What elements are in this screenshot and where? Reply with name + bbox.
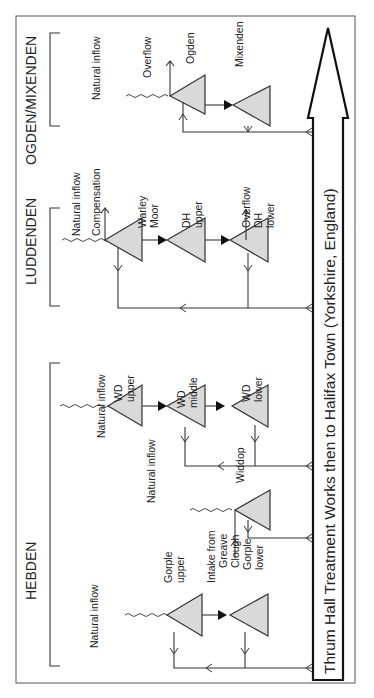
bracket-hebden [50, 363, 60, 666]
gorple-upper-outflow-line [174, 632, 312, 668]
wd-upper-label-1: WD [112, 384, 124, 402]
flow-arrowhead-icon [224, 100, 233, 110]
gorple-upper-label-1: Gorple [162, 551, 174, 583]
luddenden-outflow-line [118, 248, 312, 308]
natural-inflow-wavy-icon [62, 239, 110, 242]
gorple-upper-label-2: upper [174, 556, 186, 583]
flow-arrowhead-icon [158, 235, 167, 245]
hebden-gorple-group: Natural inflow Gorple upper Intake from … [88, 530, 312, 672]
compensation-arrow-icon [101, 208, 109, 240]
destination-label: Thrum Hall Treatment Works then to Halif… [321, 188, 338, 674]
mixenden-label: Mixenden [233, 21, 245, 67]
section-title-ogden-mixenden: OGDEN/MIXENDEN [23, 36, 39, 165]
wd-middle-label-2: middle [187, 377, 199, 408]
wd-outflow-line [185, 427, 312, 466]
overflow-label: Overflow [240, 186, 252, 228]
warley-moor-label-2: Moor [148, 204, 160, 228]
reservoir-flow-diagram: Thrum Hall Treatment Works then to Halif… [0, 0, 374, 698]
intake-label-3: Clough [229, 535, 241, 568]
hebden-wd-group: Natural inflow WD upper WD middle WD low… [60, 374, 312, 470]
luddenden-group: Natural inflow Compensation Warley Moor … [62, 168, 312, 312]
ogden-label: Ogden [184, 32, 196, 64]
wd-lower-label-2: lower [252, 376, 264, 402]
flow-arrowhead-icon [216, 401, 225, 411]
natural-inflow-label: Natural inflow [70, 172, 82, 236]
natural-inflow-wavy-icon [125, 614, 167, 617]
flow-arrowhead-icon [221, 235, 230, 245]
dh-upper-label-2: upper [192, 201, 204, 228]
down-arrow-icon [114, 265, 186, 312]
gorple-lower-label-2: lower [253, 544, 265, 570]
compensation-label: Compensation [90, 168, 102, 236]
natural-inflow-wavy-icon [126, 95, 168, 98]
natural-inflow-wavy-icon [190, 509, 232, 512]
ogden-mixenden-group: Natural inflow Ogden Overflow Mixenden [90, 21, 312, 136]
warley-moor-label-1: Warley [136, 195, 148, 228]
down-arrow-icon [244, 126, 312, 136]
section-title-hebden: HEBDEN [23, 542, 39, 600]
overflow-label: Overflow [141, 36, 153, 78]
natural-inflow-label: Natural inflow [95, 374, 107, 438]
gorple-upper-reservoir-icon [167, 594, 202, 636]
dh-lower-label-2: lower [264, 202, 276, 228]
gorple-lower-label-1: Gorple [241, 538, 253, 570]
ogden-reservoir-icon [170, 75, 205, 114]
widdop-reservoir-icon [235, 490, 270, 530]
wd-upper-label-2: upper [124, 375, 136, 402]
intake-label-2: Greave [217, 533, 229, 568]
intake-label-1: Intake from [205, 530, 217, 583]
widdop-label: Widdop [234, 447, 246, 483]
mixenden-reservoir-icon [233, 86, 270, 126]
overflow-arrow-icon [166, 61, 174, 96]
flow-arrowhead-icon [218, 610, 227, 620]
gorple-lower-reservoir-icon [230, 594, 268, 636]
down-arrow-icon [244, 265, 312, 312]
destination-arrow: Thrum Hall Treatment Works then to Halif… [308, 28, 348, 680]
section-title-luddenden: LUDDENDEN [23, 198, 39, 285]
down-arrow-icon [251, 436, 312, 470]
natural-inflow-label: Natural inflow [145, 439, 157, 503]
bracket-ogden-mixenden [50, 33, 60, 126]
down-arrow-icon [181, 436, 224, 470]
down-arrow-icon [244, 526, 312, 542]
natural-inflow-label: Natural inflow [90, 36, 102, 100]
dh-upper-label-1: DH [180, 213, 192, 228]
wd-lower-label-1: WD [240, 384, 252, 402]
bracket-luddenden [50, 208, 60, 306]
dh-lower-label-1: DH [252, 213, 264, 228]
natural-inflow-label: Natural inflow [88, 584, 100, 648]
flow-arrowhead-icon [158, 401, 167, 411]
wd-middle-label-1: WD [175, 390, 187, 408]
